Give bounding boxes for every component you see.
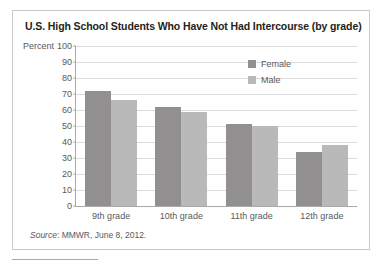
- bar-group: 9th grade: [76, 46, 146, 206]
- y-tick-label-30: 30: [62, 153, 72, 163]
- legend-swatch-male-icon: [248, 76, 256, 84]
- source-note-text: : MMWR, June 8, 2012.: [57, 230, 146, 240]
- legend-swatch-female-icon: [248, 60, 256, 68]
- y-tick-label-20: 20: [62, 169, 72, 179]
- chart-title: U.S. High School Students Who Have Not H…: [25, 20, 362, 32]
- x-tick-label-12th-grade: 12th grade: [300, 211, 343, 221]
- x-tick-label-11th-grade: 11th grade: [230, 211, 272, 221]
- legend-item-male: Male: [248, 73, 328, 87]
- bar-male-9th-grade[interactable]: [111, 100, 137, 206]
- gridline-0: [76, 206, 357, 207]
- source-note: Source: MMWR, June 8, 2012.: [30, 230, 146, 240]
- legend-label-male: Male: [261, 75, 281, 85]
- y-tick-label-100: 100: [57, 41, 72, 51]
- bottom-rule-divider: [12, 259, 98, 260]
- chart-legend: Female Male: [248, 57, 328, 89]
- bar-male-10th-grade[interactable]: [181, 112, 207, 206]
- bar-male-12th-grade[interactable]: [322, 145, 348, 206]
- bar-male-11th-grade[interactable]: [252, 126, 278, 206]
- bar-female-9th-grade[interactable]: [85, 91, 111, 206]
- y-tick-label-40: 40: [62, 137, 72, 147]
- bar-group: 10th grade: [146, 46, 216, 206]
- y-tick-label-0: 0: [67, 201, 72, 211]
- y-tick-label-90: 90: [62, 57, 72, 67]
- bar-female-10th-grade[interactable]: [155, 107, 181, 206]
- legend-label-female: Female: [261, 59, 291, 69]
- bar-female-12th-grade[interactable]: [296, 152, 322, 206]
- x-tick-label-9th-grade: 9th grade: [92, 211, 130, 221]
- y-tick-label-80: 80: [62, 73, 72, 83]
- y-tick-label-50: 50: [62, 121, 72, 131]
- bar-pair: [76, 46, 146, 206]
- bar-female-11th-grade[interactable]: [226, 124, 252, 206]
- figure-panel: U.S. High School Students Who Have Not H…: [12, 10, 370, 250]
- x-tick-label-10th-grade: 10th grade: [160, 211, 203, 221]
- y-tick-label-10: 10: [62, 185, 72, 195]
- y-tick-label-70: 70: [62, 89, 72, 99]
- bar-pair: [146, 46, 216, 206]
- y-tick-label-60: 60: [62, 105, 72, 115]
- y-axis-label: Percent: [23, 41, 54, 51]
- source-note-prefix: Source: [30, 230, 57, 240]
- legend-item-female: Female: [248, 57, 328, 71]
- plot-wrapper: Percent 10090807060504030201009th grade1…: [13, 41, 369, 219]
